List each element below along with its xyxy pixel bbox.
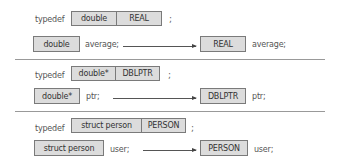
usage-before-type-box: double*	[34, 88, 80, 104]
terminator: ;	[191, 123, 194, 133]
usage-after-var: average;	[252, 40, 286, 49]
usage-after-type-box: REAL	[200, 36, 246, 52]
alias-box: REAL	[117, 11, 162, 26]
arrow-right-icon	[113, 98, 196, 99]
usage-after-var: ptr;	[252, 92, 265, 101]
arrow-right-icon	[143, 150, 196, 151]
typedef-keyword: typedef	[35, 71, 64, 80]
alias-box: PERSON	[142, 118, 186, 133]
usage-after-type-box: DBLPTR	[200, 88, 246, 104]
usage-after-type-box: PERSON	[200, 140, 248, 156]
usage-after-var: user;	[254, 145, 273, 154]
usage-before-type-box: struct person	[34, 140, 104, 156]
usage-before-var: average;	[85, 40, 119, 49]
alias-box: DBLPTR	[116, 66, 160, 81]
usage-before-var: user;	[110, 145, 129, 154]
typedef-keyword: typedef	[35, 15, 64, 24]
typedef-keyword: typedef	[35, 124, 64, 133]
original-type-box: double	[71, 11, 117, 26]
arrow-right-icon	[123, 46, 196, 47]
original-type-box: double*	[71, 66, 116, 81]
terminator: ;	[168, 70, 171, 80]
original-type-box: struct person	[71, 118, 142, 133]
separator	[15, 59, 325, 60]
separator	[15, 111, 325, 112]
usage-before-var: ptr;	[86, 92, 99, 101]
terminator: ;	[169, 14, 172, 24]
usage-before-type-box: double	[33, 36, 80, 52]
